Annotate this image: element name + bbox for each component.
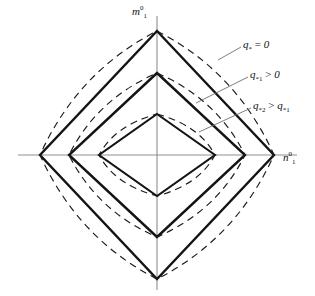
- x-axis-label: n01: [283, 152, 296, 163]
- annotation-q1-label: q*1 > 0: [250, 69, 280, 80]
- yield-locus-figure: m01 n01 q* = 0 q*1 > 0 q*2 > q*1: [0, 0, 315, 296]
- annotation-q0-label: q* = 0: [243, 39, 269, 50]
- annotation-q2-label: q*2 > q*1: [253, 100, 290, 111]
- y-axis-label: m01: [132, 6, 147, 17]
- leader-line-q0: [218, 47, 241, 60]
- axes-group: [18, 16, 297, 290]
- annotation-leaders-group: [196, 47, 251, 132]
